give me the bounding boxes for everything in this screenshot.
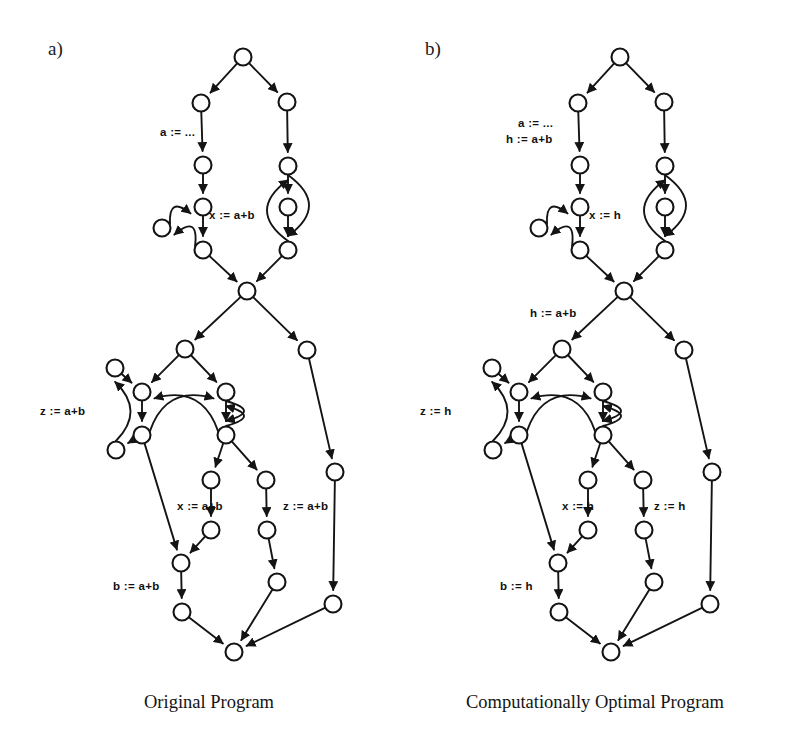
node-a-n12 bbox=[177, 341, 194, 358]
panel-a-nodes bbox=[107, 49, 344, 661]
node-a-n9 bbox=[195, 242, 212, 259]
panel-a-caption: Original Program bbox=[144, 692, 274, 713]
edge-b-n17-to-n25 bbox=[522, 444, 554, 550]
node-a-n8 bbox=[154, 220, 171, 237]
edge-b-n9-to-n11 bbox=[587, 256, 614, 281]
edge-b-n1-to-n2 bbox=[587, 64, 613, 93]
edge-b-n19-to-n14 bbox=[492, 382, 507, 441]
node-b-n17 bbox=[511, 427, 528, 444]
node-a-n7 bbox=[280, 199, 297, 216]
node-a-n29 bbox=[226, 644, 243, 661]
edge-a-n22-to-n24 bbox=[266, 489, 267, 516]
edge-a-n8-to-n6 bbox=[170, 206, 191, 223]
edge-a-n12-to-n15 bbox=[152, 355, 179, 382]
node-b-n8 bbox=[531, 220, 548, 237]
edge-b-n17-to-n16 bbox=[527, 395, 591, 431]
edge-a-n9-to-n8 bbox=[174, 226, 195, 245]
edge-a-n12-to-n16 bbox=[191, 356, 216, 382]
edge-b-n18-to-n16 bbox=[603, 406, 621, 426]
panel-b-label-b-assign: b := h bbox=[500, 580, 533, 592]
edge-b-n26-to-n29 bbox=[618, 590, 649, 640]
edge-b-n11-to-n12 bbox=[572, 297, 617, 339]
node-a-n11 bbox=[239, 283, 256, 300]
edge-a-n3-to-n5 bbox=[287, 111, 288, 152]
edge-a-n10-to-n11 bbox=[257, 256, 282, 281]
panel-b-label-h-assign-2: h := a+b bbox=[530, 307, 577, 319]
edge-b-n2-to-n4 bbox=[578, 112, 579, 151]
edge-a-n2-to-n4 bbox=[201, 112, 202, 151]
edge-b-n17-to-n19 bbox=[505, 439, 511, 443]
edge-b-n13-to-n20 bbox=[686, 359, 709, 459]
node-b-n9 bbox=[572, 242, 589, 259]
node-b-n6 bbox=[572, 199, 589, 216]
panel-b-tag: b) bbox=[425, 38, 441, 60]
edge-a-n13-to-n20 bbox=[309, 359, 332, 459]
node-a-n20 bbox=[327, 464, 344, 481]
node-b-n27 bbox=[551, 604, 568, 621]
edge-b-n18-to-n15 bbox=[531, 395, 595, 431]
node-b-n18 bbox=[595, 427, 612, 444]
edge-b-n9-to-n8 bbox=[551, 226, 572, 245]
node-a-n14 bbox=[107, 360, 124, 377]
edge-a-n1-to-n3 bbox=[249, 63, 277, 92]
node-a-n3 bbox=[279, 94, 296, 111]
control-flow-graph-canvas bbox=[0, 0, 799, 754]
node-b-n11 bbox=[616, 283, 633, 300]
edge-a-n17-to-n25 bbox=[145, 444, 177, 550]
node-a-n19 bbox=[108, 442, 125, 459]
edge-a-n14-to-n15 bbox=[122, 374, 132, 383]
panel-b-label-x-assign: x := h bbox=[589, 209, 621, 221]
node-b-n19 bbox=[485, 442, 502, 459]
node-b-n3 bbox=[656, 94, 673, 111]
panel-a-tag: a) bbox=[48, 38, 63, 60]
edge-a-n18-to-n22 bbox=[232, 442, 257, 470]
figure-root: a) b) Original Program Computationally O… bbox=[0, 0, 799, 754]
panel-b-label-h-assign: h := a+b bbox=[506, 133, 553, 145]
node-a-n16 bbox=[218, 384, 235, 401]
node-a-n23 bbox=[203, 522, 220, 539]
node-a-n13 bbox=[299, 342, 316, 359]
edge-a-n11-to-n13 bbox=[253, 297, 297, 340]
edge-a-n25-to-n27 bbox=[181, 572, 182, 598]
edge-a-n26-to-n29 bbox=[241, 590, 272, 640]
edge-a-n16-to-n18 bbox=[226, 401, 244, 421]
node-a-n10 bbox=[280, 242, 297, 259]
node-b-n12 bbox=[554, 341, 571, 358]
node-a-n4 bbox=[195, 157, 212, 174]
node-b-n25 bbox=[550, 555, 567, 572]
edge-a-n17-to-n19 bbox=[128, 439, 134, 443]
node-b-n22 bbox=[635, 472, 652, 489]
edge-b-n12-to-n16 bbox=[568, 356, 593, 382]
node-b-n23 bbox=[580, 522, 597, 539]
panel-a-label-b-assign: b := a+b bbox=[113, 580, 160, 592]
edge-b-n1-to-n3 bbox=[626, 63, 654, 92]
panel-a-label-a-assign: a := ... bbox=[160, 126, 195, 138]
node-a-n28 bbox=[325, 596, 342, 613]
edge-a-n18-to-n15 bbox=[154, 395, 218, 431]
edge-a-n9-to-n11 bbox=[210, 256, 237, 281]
edge-b-n11-to-n13 bbox=[630, 297, 674, 340]
node-b-n26 bbox=[646, 574, 663, 591]
node-a-n2 bbox=[193, 95, 210, 112]
edge-a-n23-to-n25 bbox=[190, 537, 205, 553]
edge-a-n17-to-n16 bbox=[150, 395, 214, 431]
node-b-n7 bbox=[657, 199, 674, 216]
panel-b-label-z-assign: z := h bbox=[420, 405, 452, 417]
node-b-n10 bbox=[657, 242, 674, 259]
node-a-n21 bbox=[203, 472, 220, 489]
node-b-n13 bbox=[676, 342, 693, 359]
node-a-n24 bbox=[259, 522, 276, 539]
edge-b-n27-to-n29 bbox=[566, 617, 600, 643]
panel-a-label-x-assign-2: x := a+b bbox=[177, 500, 223, 512]
node-a-n26 bbox=[269, 574, 286, 591]
node-b-n2 bbox=[570, 95, 587, 112]
panel-b-label-x-assign-2: x := h bbox=[562, 500, 594, 512]
edge-a-n27-to-n29 bbox=[189, 617, 223, 643]
edge-a-n11-to-n12 bbox=[195, 297, 240, 339]
edge-b-n12-to-n15 bbox=[529, 355, 556, 382]
edge-b-n25-to-n27 bbox=[558, 572, 559, 598]
node-b-n29 bbox=[603, 644, 620, 661]
edge-a-n18-to-n16 bbox=[226, 406, 244, 426]
node-b-n1 bbox=[612, 49, 629, 66]
edge-b-n14-to-n15 bbox=[499, 374, 509, 383]
